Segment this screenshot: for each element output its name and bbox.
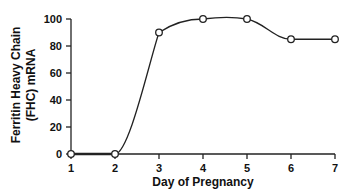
y-tick-label: 40 <box>50 94 62 106</box>
y-axis-title: Ferritin Heavy Chain (FHC) mRNA <box>9 27 38 144</box>
data-point-marker <box>112 151 119 158</box>
data-point-marker <box>244 16 251 23</box>
y-tick-label: 20 <box>50 121 62 133</box>
data-point-marker <box>156 29 163 36</box>
x-tick-label: 3 <box>156 162 162 174</box>
y-tick-label: 100 <box>44 13 62 25</box>
x-tick-label: 4 <box>200 162 207 174</box>
series-line <box>71 18 335 155</box>
x-tick-label: 1 <box>68 162 74 174</box>
y-tick-label: 80 <box>50 40 62 52</box>
x-tick-label: 7 <box>332 162 338 174</box>
y-tick-label: 0 <box>56 148 62 160</box>
x-tick-label: 2 <box>112 162 118 174</box>
data-point-marker <box>200 16 207 23</box>
data-point-marker <box>332 36 339 43</box>
x-tick-label: 5 <box>244 162 250 174</box>
y-axis-title-line-2: (FHC) mRNA <box>24 48 38 121</box>
y-axis: 020406080100 <box>44 13 71 160</box>
x-axis: 1234567 <box>68 154 338 174</box>
line-chart: Ferritin Heavy Chain (FHC) mRNA 02040608… <box>0 0 354 194</box>
data-point-marker <box>68 151 75 158</box>
data-point-marker <box>288 36 295 43</box>
x-axis-title: Day of Pregnancy <box>152 175 254 189</box>
x-tick-label: 6 <box>288 162 294 174</box>
y-tick-label: 60 <box>50 67 62 79</box>
series-fhc-mrna <box>68 16 339 158</box>
y-axis-title-line-1: Ferritin Heavy Chain <box>9 27 23 144</box>
